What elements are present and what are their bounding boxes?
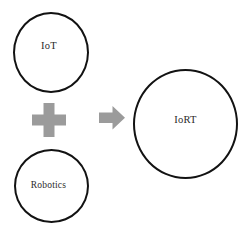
- node-iort-label: IoRT: [174, 115, 196, 126]
- node-iort: IoRT: [133, 69, 238, 179]
- plus-icon: [32, 103, 66, 137]
- node-robotics: Robotics: [14, 149, 89, 223]
- node-iot: IoT: [13, 12, 89, 93]
- node-iot-label: IoT: [41, 41, 57, 52]
- diagram-canvas: IoT Robotics IoRT: [0, 0, 250, 241]
- arrow-right-icon: [99, 105, 125, 131]
- node-robotics-label: Robotics: [31, 181, 66, 191]
